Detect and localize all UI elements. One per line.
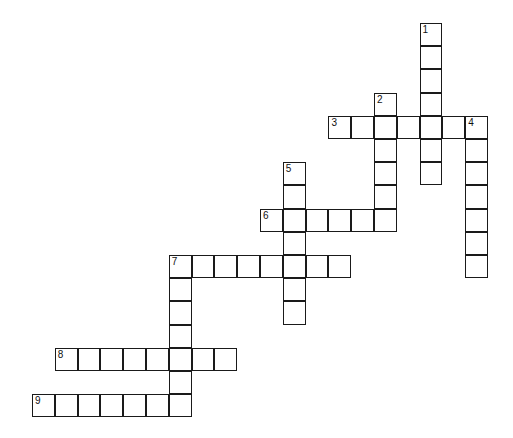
crossword-cell[interactable]: 8 xyxy=(55,348,78,371)
crossword-cell[interactable] xyxy=(465,232,488,255)
crossword-cell[interactable] xyxy=(397,116,420,139)
clue-number: 5 xyxy=(286,163,292,174)
crossword-cell[interactable] xyxy=(374,162,397,185)
crossword-cell[interactable] xyxy=(78,394,101,417)
crossword-cell[interactable] xyxy=(237,255,260,278)
crossword-cell[interactable]: 5 xyxy=(283,162,306,185)
clue-number: 3 xyxy=(331,117,337,128)
crossword-cell[interactable] xyxy=(100,348,123,371)
clue-number: 9 xyxy=(35,395,41,406)
clue-number: 4 xyxy=(468,117,474,128)
crossword-cell[interactable] xyxy=(420,116,443,139)
crossword-cell[interactable] xyxy=(214,255,237,278)
crossword-cell[interactable] xyxy=(374,185,397,208)
crossword-cell[interactable] xyxy=(442,116,465,139)
crossword-cell[interactable] xyxy=(100,394,123,417)
crossword-cell[interactable] xyxy=(465,209,488,232)
crossword-cell[interactable] xyxy=(169,371,192,394)
crossword-cell[interactable] xyxy=(374,116,397,139)
crossword-cell[interactable] xyxy=(465,162,488,185)
crossword-cell[interactable] xyxy=(465,255,488,278)
crossword-cell[interactable]: 4 xyxy=(465,116,488,139)
crossword-cell[interactable]: 6 xyxy=(260,209,283,232)
crossword-cell[interactable] xyxy=(169,325,192,348)
crossword-cell[interactable] xyxy=(351,116,374,139)
crossword-cell[interactable] xyxy=(146,348,169,371)
crossword-cell[interactable] xyxy=(420,93,443,116)
clue-number: 6 xyxy=(263,210,269,221)
crossword-cell[interactable] xyxy=(420,69,443,92)
crossword-cell[interactable]: 2 xyxy=(374,93,397,116)
crossword-cell[interactable]: 3 xyxy=(328,116,351,139)
clue-number: 8 xyxy=(58,349,64,360)
crossword-cell[interactable] xyxy=(214,348,237,371)
crossword-cell[interactable] xyxy=(78,348,101,371)
crossword-grid: 123456789 xyxy=(0,0,513,438)
crossword-cell[interactable] xyxy=(123,348,146,371)
crossword-cell[interactable] xyxy=(283,301,306,324)
crossword-cell[interactable] xyxy=(465,185,488,208)
crossword-cell[interactable] xyxy=(146,394,169,417)
crossword-cell[interactable]: 9 xyxy=(32,394,55,417)
crossword-cell[interactable] xyxy=(283,255,306,278)
crossword-cell[interactable] xyxy=(374,139,397,162)
crossword-cell[interactable] xyxy=(169,394,192,417)
crossword-cell[interactable] xyxy=(420,139,443,162)
crossword-cell[interactable] xyxy=(374,209,397,232)
crossword-cell[interactable] xyxy=(351,209,374,232)
crossword-cell[interactable] xyxy=(306,255,329,278)
crossword-cell[interactable] xyxy=(55,394,78,417)
crossword-cell[interactable] xyxy=(169,301,192,324)
clue-number: 7 xyxy=(172,256,178,267)
crossword-cell[interactable] xyxy=(260,255,283,278)
crossword-cell[interactable] xyxy=(283,209,306,232)
crossword-cell[interactable] xyxy=(306,209,329,232)
crossword-cell[interactable] xyxy=(465,139,488,162)
crossword-cell[interactable] xyxy=(169,348,192,371)
crossword-cell[interactable] xyxy=(328,209,351,232)
crossword-cell[interactable] xyxy=(420,162,443,185)
crossword-cell[interactable] xyxy=(169,278,192,301)
crossword-cell[interactable] xyxy=(283,185,306,208)
clue-number: 2 xyxy=(377,94,383,105)
crossword-cell[interactable] xyxy=(283,232,306,255)
crossword-cell[interactable] xyxy=(123,394,146,417)
crossword-cell[interactable] xyxy=(192,348,215,371)
clue-number: 1 xyxy=(423,24,429,35)
crossword-cell[interactable] xyxy=(283,278,306,301)
crossword-cell[interactable]: 1 xyxy=(420,23,443,46)
crossword-cell[interactable]: 7 xyxy=(169,255,192,278)
crossword-cell[interactable] xyxy=(328,255,351,278)
crossword-cell[interactable] xyxy=(192,255,215,278)
crossword-cell[interactable] xyxy=(420,46,443,69)
